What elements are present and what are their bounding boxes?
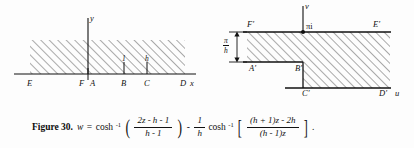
formula-minus: - (186, 122, 191, 132)
formula-term1-function: cosh (96, 122, 113, 132)
height-label-pi-over-h: π h (223, 37, 229, 55)
right-diagram-w-plane: v u πi F′ E′ A′ B′ C′ D′ π h (207, 0, 414, 104)
point-label-E-prime: E′ (373, 20, 380, 29)
figure-number-label: Figure 30. (32, 122, 73, 132)
pi-i-label: πi (306, 22, 313, 31)
point-label-B-prime: B′ (295, 64, 302, 73)
point-label-A: A (90, 79, 95, 88)
point-label-C: C (144, 79, 150, 88)
segment-label-one: 1 (122, 55, 126, 63)
left-diagram-svg (0, 0, 207, 104)
point-label-D-prime: D′ (379, 89, 387, 98)
figure-page: y x E F A B C D 1 h (0, 0, 414, 148)
hatched-region-left (30, 40, 185, 74)
formula-coefficient-denominator: h (194, 129, 205, 138)
formula-coefficient-fraction: 1 h (194, 116, 205, 138)
caption-formula: w = cosh-1 ( 2z - h - 1 h - 1 ) - 1 h co… (77, 116, 314, 138)
figure-caption: Figure 30. w = cosh-1 ( 2z - h - 1 h - 1… (32, 112, 404, 142)
left-axis-label-y: y (90, 14, 94, 23)
point-label-F-prime: F′ (247, 20, 254, 29)
left-diagram-z-plane: y x E F A B C D 1 h (0, 0, 207, 104)
formula-paren-close: ) (177, 119, 182, 135)
formula-end-period: . (312, 122, 314, 132)
point-label-F: F (79, 79, 84, 88)
formula-paren-open: ( (125, 119, 130, 135)
hatched-region-right (247, 32, 390, 88)
formula-term1-denominator: h - 1 (142, 129, 165, 138)
point-label-E: E (27, 79, 32, 88)
formula-term2-exponent: -1 (228, 121, 233, 128)
formula-term2-denominator: (h - 1)z (257, 129, 289, 138)
right-axis-label-u: u (395, 89, 399, 98)
formula-equals: = (86, 122, 93, 132)
point-label-D: D (180, 79, 186, 88)
formula-term1-numerator: 2z - h - 1 (134, 116, 172, 125)
formula-term2-numerator: (h + 1)z - 2h (247, 116, 299, 125)
point-label-A-prime: A′ (249, 64, 256, 73)
height-label-numerator: π (223, 37, 229, 45)
formula-lhs-w: w (77, 122, 83, 132)
formula-term2-fraction: (h + 1)z - 2h (h - 1)z (247, 116, 299, 138)
formula-bracket-open: [ (238, 119, 242, 135)
formula-bracket-close: ] (304, 119, 308, 135)
formula-term2-function: cosh (208, 122, 225, 132)
segment-label-h: h (145, 55, 149, 63)
formula-term1-exponent: -1 (116, 121, 121, 128)
formula-coefficient-numerator: 1 (194, 116, 205, 125)
left-axis-label-x: x (190, 79, 194, 88)
right-axis-label-v: v (305, 2, 309, 11)
point-label-B: B (121, 79, 126, 88)
formula-term1-fraction: 2z - h - 1 h - 1 (134, 116, 172, 138)
point-label-C-prime: C′ (302, 89, 310, 98)
pi-i-marker-dot (301, 30, 305, 34)
height-label-denominator: h (223, 47, 229, 55)
